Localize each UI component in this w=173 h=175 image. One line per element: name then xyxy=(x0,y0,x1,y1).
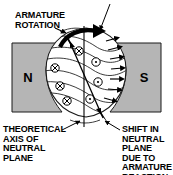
conductor-out-of-page xyxy=(94,78,102,86)
armature-rotation-label: ARMATURE ROTATION xyxy=(15,11,65,30)
conductor-into-page xyxy=(75,47,83,55)
leader-shift-neutral xyxy=(105,121,120,130)
conductor-into-page xyxy=(56,82,64,90)
conductor-into-page xyxy=(51,64,59,72)
south-pole-letter: S xyxy=(140,70,149,85)
theoretical-axis-label: THEORETICAL AXIS OF NEUTRAL PLANE xyxy=(3,125,66,163)
shift-in-neutral-plane-label: SHIFT IN NEUTRAL PLANE DUE TO ARMATURE R… xyxy=(122,125,172,175)
armature-reaction-figure: RESULTANT ARMATURE FIELD N S xyxy=(0,0,173,175)
leader-resultant-field xyxy=(100,4,110,30)
armature-outline xyxy=(46,28,126,117)
conductor-into-page xyxy=(63,97,71,105)
north-pole-letter: N xyxy=(23,70,32,85)
conductor-out-of-page xyxy=(92,58,100,66)
